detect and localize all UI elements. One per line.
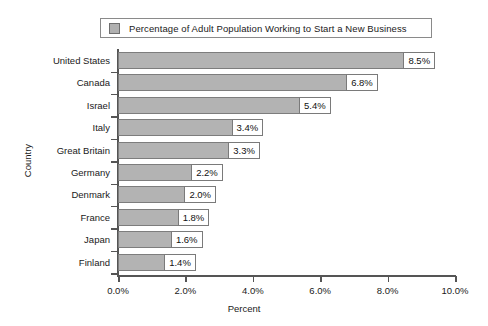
x-axis-tick <box>388 276 390 282</box>
bar-value-label: 6.8% <box>346 74 378 91</box>
x-axis-tick-label: 6.0% <box>309 285 331 296</box>
y-axis-tick <box>111 228 117 230</box>
x-axis-tick-label: 8.0% <box>377 285 399 296</box>
bar-row: 5.4% <box>118 97 331 114</box>
x-axis-tick <box>455 276 457 282</box>
bar <box>118 209 179 226</box>
bar-row: 1.6% <box>118 231 203 248</box>
bar <box>118 52 404 69</box>
x-axis-tick <box>185 276 187 282</box>
bar <box>118 97 300 114</box>
bar <box>118 119 233 136</box>
x-axis-tick <box>320 276 322 282</box>
bar-row: 8.5% <box>118 52 435 69</box>
x-axis-tick <box>253 276 255 282</box>
bar-row: 2.0% <box>118 186 216 203</box>
x-axis-tick-label: 10.0% <box>442 285 469 296</box>
plot-area: 8.5%6.8%5.4%3.4%3.3%2.2%2.0%1.8%1.6%1.4% <box>118 50 455 275</box>
x-axis-tick-label: 0.0% <box>107 285 129 296</box>
bar-value-label: 1.6% <box>171 231 203 248</box>
bar-row: 2.2% <box>118 164 223 181</box>
x-axis-title: Percent <box>0 303 488 314</box>
bar-row: 3.3% <box>118 142 260 159</box>
bar <box>118 231 172 248</box>
y-axis-category-label: Japan <box>6 234 110 245</box>
bar-value-label: 1.4% <box>164 254 196 271</box>
y-axis-tick <box>111 184 117 186</box>
x-axis-line <box>117 275 456 277</box>
y-axis-tick <box>111 139 117 141</box>
bar-value-label: 2.2% <box>191 164 223 181</box>
y-axis-tick <box>111 94 117 96</box>
bar-value-label: 1.8% <box>178 209 210 226</box>
bar <box>118 142 229 159</box>
y-axis-labels: United StatesCanadaIsraelItalyGreat Brit… <box>0 50 110 275</box>
y-axis-category-label: Finland <box>6 257 110 268</box>
y-axis-category-label: United States <box>6 55 110 66</box>
bar <box>118 254 165 271</box>
bar <box>118 164 192 181</box>
x-axis-tick-label: 2.0% <box>175 285 197 296</box>
bar-row: 6.8% <box>118 74 378 91</box>
y-axis-tick <box>111 116 117 118</box>
y-axis-tick <box>111 206 117 208</box>
bar-value-label: 3.3% <box>228 142 260 159</box>
y-axis-category-label: Canada <box>6 77 110 88</box>
bar <box>118 74 347 91</box>
y-axis-tick <box>111 251 117 253</box>
bar-value-label: 8.5% <box>403 52 435 69</box>
x-axis-tick <box>118 276 120 282</box>
y-axis-tick <box>111 161 117 163</box>
bar-row: 1.4% <box>118 254 196 271</box>
bar-row: 3.4% <box>118 119 263 136</box>
y-axis-category-label: France <box>6 212 110 223</box>
legend-swatch-icon <box>109 23 120 34</box>
bar-value-label: 5.4% <box>299 97 331 114</box>
bar-value-label: 2.0% <box>184 186 216 203</box>
x-axis-tick-label: 4.0% <box>242 285 264 296</box>
chart-legend: Percentage of Adult Population Working t… <box>100 18 432 38</box>
y-axis-tick <box>111 72 117 74</box>
bar-value-label: 3.4% <box>232 119 264 136</box>
bar-row: 1.8% <box>118 209 209 226</box>
y-axis-tick <box>111 273 117 275</box>
legend-label: Percentage of Adult Population Working t… <box>129 23 407 34</box>
bar <box>118 186 185 203</box>
y-axis-category-label: Israel <box>6 100 110 111</box>
y-axis-title: Country <box>22 121 33 201</box>
